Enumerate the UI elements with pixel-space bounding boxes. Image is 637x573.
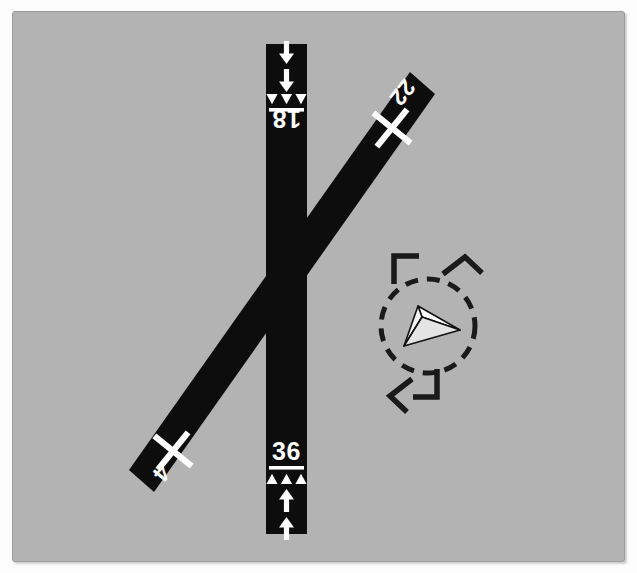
segmented-circle — [381, 256, 482, 412]
airport-diagram-canvas: 18 36 22 — [13, 12, 624, 561]
airport-diagram-panel: 18 36 22 — [12, 11, 625, 562]
traffic-pattern-leg-southwest — [390, 379, 412, 412]
traffic-pattern-leg-northeast — [443, 257, 482, 274]
runway-designator-18: 18 — [272, 105, 301, 133]
runway-designator-36: 36 — [272, 437, 301, 465]
screenshot-root: 18 36 22 — [0, 0, 637, 573]
tetrahedron-wind-indicator — [404, 306, 460, 346]
